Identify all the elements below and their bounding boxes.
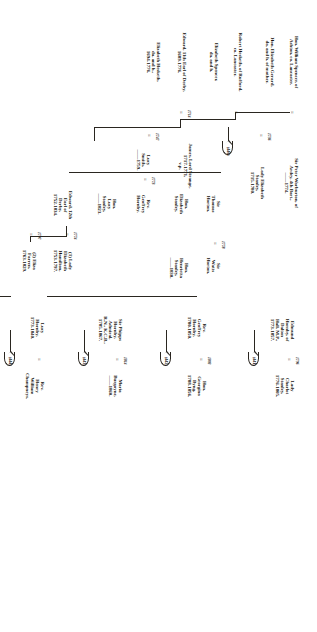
connector-to-warburton: [228, 127, 229, 141]
node-lucy-hornby: Lucy Hornby, 1773-1840.: [30, 308, 45, 348]
node-maria-burgoyne: Maria Burgoyne, ——1860.: [108, 366, 123, 406]
connector-444-stem: [10, 330, 11, 352]
marriage-year-watts-henrietta: 1778: [221, 241, 225, 248]
connector-441-stem: [254, 330, 255, 352]
node-eliza-farren: (2) Eliza Farren, 1763-1829.: [22, 240, 37, 282]
node-edward-11th-derby: Edward, 11th Earl of Derby, 1689-1776.: [177, 16, 187, 108]
node-elizabeth-hesketh: Elizabeth Hesketh, da. and h., 1694-1776…: [146, 16, 161, 108]
page-ref-442: (442): [164, 357, 169, 366]
node-sir-peter-warburton: Sir Peter Warburton, of Ardey, 4th Bart.…: [284, 140, 299, 226]
node-rev-geoffrey-hornby-sr: Rev. Geoffrey Hornby.: [136, 184, 151, 224]
marriage-year-geoffrey-lucy: 1773: [151, 177, 155, 184]
node-edward-12th-derby: Edward, 12th Earl of Derby, 1752-1834.: [53, 184, 73, 226]
equals-edmund-charlot: =: [287, 358, 292, 361]
marriage-year-derby-hamilton: 1774: [73, 232, 77, 239]
equals-spencer-gerard: =: [290, 111, 295, 114]
equals-lucy-champneys: =: [37, 358, 42, 361]
node-lady-elizabeth-hamilton: (1) Lady Elizabeth Hamilton, 1753-1797.: [53, 240, 73, 282]
node-hon-georgina-byng: Hon. Georgina Byng, 1788-1856.: [187, 366, 207, 406]
page-ref-443: (443): [82, 357, 87, 366]
equals-hesketh-derby: =: [179, 111, 184, 114]
node-sir-phipps-hornby: Sir Phipps Hornby, Admiral, R.N., K.C.B.…: [98, 308, 123, 352]
node-edmund-hornby: Edmund Hornby, of Dalton Hall, M.P., 177…: [270, 308, 295, 352]
marriage-year-stanley-warburton: 1736: [267, 133, 271, 140]
node-sir-thomas-horton: Sir Thomas Horton.: [206, 184, 221, 224]
node-william-spencer: Hon. William Spencer, of Ashton, co. Lan…: [289, 16, 299, 108]
marriage-year-strange-smith: 1747: [155, 133, 159, 140]
connector-442-stem: [166, 330, 167, 352]
marriage-year-hesketh-derby: 1714: [187, 110, 191, 117]
equals-watts-henrietta: =: [213, 242, 218, 245]
page-ref-444: (444): [8, 357, 13, 366]
node-hon-elizabeth-stanley-b: Hon. Elizabeth Stanley.: [174, 184, 189, 224]
page-ref-440: (440): [226, 147, 231, 156]
connector-gen3-spine: [69, 172, 221, 173]
connector-spencer-down: [236, 112, 290, 113]
connector-derby-issue-spine: [95, 127, 181, 128]
equals-geoffrey-lucy: =: [143, 178, 148, 181]
equals-geoffrey-georgina: =: [199, 358, 204, 361]
connector-horton-spine: [0, 296, 11, 297]
connector-443-stem: [84, 330, 85, 352]
node-lucy-smith: Lucy Smith, ——1759.: [136, 140, 151, 180]
node-lady-elizabeth-stanley: Lady Elizabeth Stanley, 1715-1780.: [250, 140, 265, 226]
marriage-year-phipps-maria: 1814: [123, 357, 127, 364]
page-ref-441: (441): [252, 357, 257, 366]
node-hon-henrietta-stanley: Hon. Henrietta Stanley, ——1830.: [169, 248, 189, 288]
node-lady-charlot-stanley: Lady Charlot Stanley, 1776-1805.: [275, 366, 295, 406]
connector-derby-m2: [30, 236, 31, 242]
connector-derby-two-marriages: [31, 236, 67, 237]
node-rev-geoffrey-hornby-jr: Rev. Geoffrey Hornby, 1780-1850.: [187, 308, 207, 348]
marriage-year-edmund-charlot: 1796: [295, 357, 299, 364]
connector-to-strange-issue: [94, 127, 95, 141]
node-sir-watts-horton: Sir Watts Horton.: [206, 248, 221, 284]
connector-hesketh-down: [181, 119, 236, 120]
node-robert-hesketh: Robert Hesketh, of Rufford, co. Lancaste…: [233, 16, 243, 108]
pedigree-chart-surface: Hon. William Spencer, of Ashton, co. Lan…: [0, 0, 317, 632]
equals-strange-smith: =: [147, 134, 152, 137]
node-hon-lucy-stanley: Hon. Lucy Stanley, ——1823.: [97, 184, 117, 224]
node-elizabeth-spencer: Elizabeth Spencer, da. and h.: [209, 16, 219, 108]
node-rev-henry-champneys: Rev. Henry William Champneys.: [25, 366, 45, 406]
marriage-year-geoffrey-georgina: 1802: [207, 357, 211, 364]
node-elizabeth-gerard: Hon. Elizabeth Gerard, da. and h. of mot…: [265, 16, 275, 108]
equals-stanley-warburton: =: [259, 134, 264, 137]
equals-phipps-maria: =: [115, 358, 120, 361]
connector-gen4-spine: [47, 296, 197, 297]
connector-derby-m1: [66, 226, 67, 236]
